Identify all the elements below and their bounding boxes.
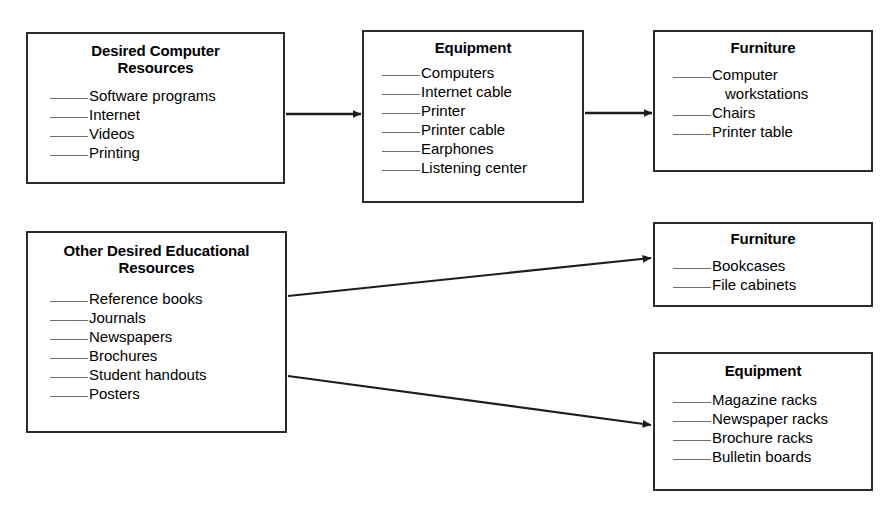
list-item[interactable]: Printing [50,143,283,162]
blank-line-icon[interactable] [673,421,711,422]
node-title: Furniture [655,32,871,56]
blank-line-icon[interactable] [382,170,420,171]
arrow-other-to-equipment [288,376,651,425]
blank-line-icon[interactable] [50,117,88,118]
node-equipment-top: Equipment Computers Internet cable Print… [362,30,584,203]
blank-line-icon[interactable] [50,155,88,156]
blank-line-icon[interactable] [382,113,420,114]
blank-line-icon[interactable] [673,134,711,135]
blank-line-icon[interactable] [50,301,88,302]
checklist: Magazine racks Newspaper racks Brochure … [655,379,871,466]
list-item[interactable]: Reference books [50,289,285,308]
list-item[interactable]: Student handouts [50,365,285,384]
node-desired-computer-resources: Desired Computer Resources Software prog… [26,32,285,184]
diagram-canvas: Desired Computer Resources Software prog… [0,0,893,517]
blank-line-icon[interactable] [50,339,88,340]
list-item[interactable]: Magazine racks [673,390,871,409]
list-item[interactable]: Posters [50,384,285,403]
list-item[interactable]: Internet [50,105,283,124]
node-other-desired-educational-resources: Other Desired Educational Resources Refe… [26,231,287,433]
list-item[interactable]: Newspapers [50,327,285,346]
blank-line-icon[interactable] [673,77,711,78]
blank-line-icon[interactable] [673,402,711,403]
blank-line-icon[interactable] [673,287,711,288]
list-item[interactable]: Videos [50,124,283,143]
list-item[interactable]: Brochures [50,346,285,365]
blank-line-icon[interactable] [50,377,88,378]
blank-line-icon[interactable] [382,151,420,152]
list-item[interactable]: Internet cable [382,82,582,101]
list-item[interactable]: Earphones [382,139,582,158]
list-item[interactable]: Printer cable [382,120,582,139]
node-furniture-top: Furniture Computerworkstations Chairs Pr… [653,30,873,172]
node-title: Equipment [655,354,871,379]
node-title: Equipment [364,32,582,56]
list-item-wrap: workstations [673,84,871,103]
checklist: Computerworkstations Chairs Printer tabl… [655,56,871,141]
list-item[interactable]: Software programs [50,86,283,105]
list-item[interactable]: Bulletin boards [673,447,871,466]
checklist: Reference books Journals Newspapers Broc… [28,276,285,403]
blank-line-icon[interactable] [382,132,420,133]
list-item[interactable]: Brochure racks [673,428,871,447]
list-item[interactable]: File cabinets [673,275,871,294]
blank-line-icon[interactable] [673,440,711,441]
blank-line-icon[interactable] [50,320,88,321]
blank-line-icon[interactable] [50,136,88,137]
list-item[interactable]: Chairs [673,103,871,122]
list-item[interactable]: Computers [382,63,582,82]
node-title: Desired Computer Resources [28,34,283,76]
blank-line-icon[interactable] [382,75,420,76]
blank-line-icon[interactable] [50,396,88,397]
node-furniture-mid: Furniture Bookcases File cabinets [653,222,873,307]
blank-line-icon[interactable] [673,268,711,269]
checklist: Bookcases File cabinets [655,247,871,294]
list-item[interactable]: Bookcases [673,256,871,275]
checklist: Computers Internet cable Printer Printer… [364,56,582,177]
blank-line-icon[interactable] [382,94,420,95]
list-item[interactable]: Journals [50,308,285,327]
blank-line-icon[interactable] [50,98,88,99]
list-item[interactable]: Computerworkstations [673,65,871,103]
node-title: Other Desired Educational Resources [28,233,285,276]
checklist: Software programs Internet Videos Printi… [28,76,283,162]
blank-line-icon[interactable] [673,115,711,116]
node-equipment-bottom: Equipment Magazine racks Newspaper racks… [653,352,873,491]
blank-line-icon[interactable] [50,358,88,359]
list-item[interactable]: Printer table [673,122,871,141]
node-title: Furniture [655,224,871,247]
arrow-other-to-furniture [288,258,651,296]
list-item[interactable]: Listening center [382,158,582,177]
blank-line-icon[interactable] [673,459,711,460]
list-item[interactable]: Newspaper racks [673,409,871,428]
list-item[interactable]: Printer [382,101,582,120]
